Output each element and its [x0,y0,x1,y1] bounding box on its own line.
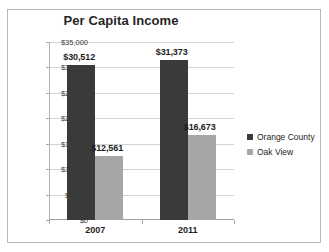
y-axis-tick-mark [46,67,49,68]
y-axis-tick-mark [46,169,49,170]
bar-value-label: $16,673 [184,122,216,132]
bar [188,135,216,220]
bar [95,156,123,220]
x-axis-tick-label: 2011 [158,225,218,235]
bar [160,60,188,220]
x-axis-tick-label: 2007 [65,225,125,235]
y-axis-tick-mark [46,118,49,119]
legend-swatch-icon [247,134,253,140]
x-axis-tick-mark [49,220,50,224]
bar-value-label: $31,373 [156,47,188,57]
chart-container: Per Capita Income $0$5,000$10,000$15,000… [7,9,321,243]
y-axis-tick-mark [46,93,49,94]
chart-legend: Orange CountyOak View [247,130,327,160]
chart-title: Per Capita Income [8,13,234,28]
x-axis-tick-mark [142,220,143,224]
legend-item[interactable]: Orange County [247,130,327,143]
legend-item[interactable]: Oak View [247,145,327,158]
y-axis-tick-mark [46,42,49,43]
y-axis-tick-mark [46,195,49,196]
legend-swatch-icon [247,149,253,155]
legend-item-label: Orange County [257,132,315,142]
y-axis-tick-label: $35,000 [28,38,88,47]
bar-value-label: $30,512 [63,52,95,62]
legend-item-label: Oak View [257,147,293,157]
bar-value-label: $12,561 [91,143,123,153]
y-axis-tick-mark [46,144,49,145]
x-axis-tick-mark [234,220,235,224]
